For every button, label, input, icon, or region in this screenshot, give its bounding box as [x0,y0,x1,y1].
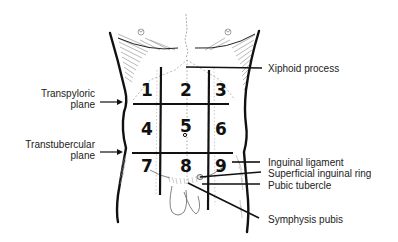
torso-outline-left [110,33,126,222]
torso-illustration: 1 2 3 4 5 6 7 8 9 [0,0,398,242]
region-7: 7 [141,156,153,176]
symphysis-pubis-label: Symphysis pubis [268,214,343,225]
transpyloric-label-line2: plane [20,99,95,110]
transpyloric-label-line1: Transpyloric [20,88,95,99]
xiphoid-process-label: Xiphoid process [268,63,339,74]
region-3: 3 [215,80,227,100]
transpyloric-plane-label: Transpyloric plane [20,88,95,110]
xiphoid-leader-line [186,67,262,68]
dotted-line-left-lateral [156,70,157,195]
genitalia-outline [170,186,200,215]
region-2: 2 [180,80,192,100]
region-9: 9 [215,156,227,176]
transtubercular-label-line2: plane [10,150,95,161]
midclavicular-line-right [208,70,209,210]
transpyloric-arrow [100,99,123,105]
midclavicular-line-left [160,67,161,195]
inguinal-ligament-label: Inguinal ligament [268,157,344,168]
torso-outline-right [244,31,259,232]
region-4: 4 [141,119,153,139]
abdominal-regions-diagram: 1 2 3 4 5 6 7 8 9 Transpyloric plane Tra… [0,0,398,242]
transtubercular-plane-label: Transtubercular plane [10,139,95,161]
pubic-tubercle-label: Pubic tubercle [268,180,331,191]
sternum [185,14,188,58]
transtubercular-label-line1: Transtubercular [10,139,95,150]
region-1: 1 [141,80,153,100]
nipple-right [225,29,231,35]
region-8: 8 [180,156,192,176]
pectoral-line-right [195,34,255,48]
pubic-hatching [168,176,197,184]
region-6: 6 [215,119,227,139]
superficial-inguinal-ring-label: Superficial inguinal ring [268,168,371,179]
transtubercular-arrow [100,149,123,155]
nipple-left [138,29,144,35]
region-5: 5 [180,116,192,136]
